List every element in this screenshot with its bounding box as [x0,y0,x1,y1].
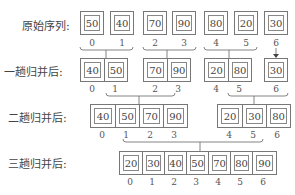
merge-brackets [0,0,295,195]
bracket-icon [228,93,288,96]
bracket-icon [143,47,196,50]
bracket-icon [106,93,175,96]
bracket-icon [123,139,263,142]
arrow-down-icon [273,54,279,58]
bracket-icon [80,47,133,50]
bracket-icon [204,47,257,50]
